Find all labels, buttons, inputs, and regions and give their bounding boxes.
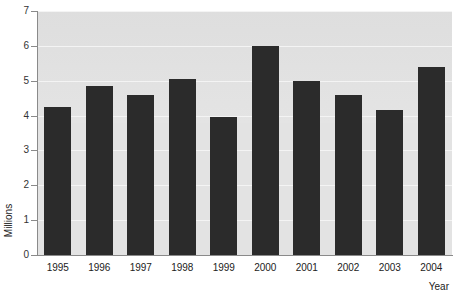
y-axis-title: Millions xyxy=(3,196,14,246)
bar xyxy=(293,81,320,255)
bar xyxy=(418,67,445,255)
x-axis-tick-label: 1996 xyxy=(77,262,121,273)
bars-layer xyxy=(37,11,452,255)
x-axis-tick-label: 2001 xyxy=(285,262,329,273)
x-axis-tick-label: 2004 xyxy=(409,262,453,273)
bar xyxy=(169,79,196,255)
y-axis-tick xyxy=(31,116,37,117)
bar xyxy=(86,86,113,255)
chart-title: 1995-2004 xyxy=(75,0,305,3)
bar xyxy=(127,95,154,255)
x-axis-tick-label: 2002 xyxy=(326,262,370,273)
x-axis-line xyxy=(37,255,453,256)
y-axis-tick-labels: 76543210 xyxy=(0,0,29,295)
plot-area xyxy=(37,11,452,255)
x-axis-tick-label: 2003 xyxy=(368,262,412,273)
y-axis-tick xyxy=(31,185,37,186)
bar xyxy=(44,107,71,255)
x-axis-title: Year xyxy=(429,281,449,292)
y-axis-tick xyxy=(31,150,37,151)
bar xyxy=(335,95,362,255)
y-axis-tick-label: 3 xyxy=(3,145,29,155)
bar xyxy=(376,110,403,255)
y-axis-tick-label: 0 xyxy=(3,250,29,260)
x-axis-tick-label: 2000 xyxy=(243,262,287,273)
y-axis-tick-label: 4 xyxy=(3,111,29,121)
y-axis-tick xyxy=(31,220,37,221)
y-axis-tick-label: 2 xyxy=(3,180,29,190)
y-axis-tick xyxy=(31,81,37,82)
x-axis-tick-label: 1995 xyxy=(36,262,80,273)
y-axis-tick-label: 6 xyxy=(3,41,29,51)
y-axis-tick-label: 5 xyxy=(3,76,29,86)
y-axis-line xyxy=(37,11,38,256)
x-axis-tick-label: 1998 xyxy=(160,262,204,273)
y-axis-tick xyxy=(31,46,37,47)
y-axis-tick-label: 7 xyxy=(3,6,29,16)
x-axis-tick-label: 1999 xyxy=(202,262,246,273)
bar-chart: 1995-2004 76543210 Millions 199519961997… xyxy=(0,0,455,295)
y-axis-tick xyxy=(31,11,37,12)
x-axis-tick-label: 1997 xyxy=(119,262,163,273)
bar xyxy=(252,46,279,255)
y-axis-tick xyxy=(31,255,37,256)
bar xyxy=(210,117,237,255)
